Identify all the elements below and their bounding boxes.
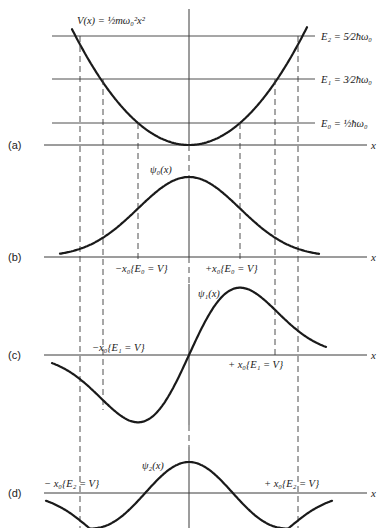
panel-d-psi2: ψ₂(x) − x₀{E₂ = V} + x₀{E₂ = V} (d) x <box>8 447 376 528</box>
e1-plus-turning-label: + x₀{E₁ = V} <box>228 359 284 370</box>
psi0-label: ψ₀(x) <box>150 164 172 176</box>
axis-x-label-c: x <box>370 349 376 361</box>
axis-x-label-b: x <box>370 251 376 263</box>
panel-label-c: (c) <box>8 349 21 361</box>
psi2-label: ψ₂(x) <box>142 460 164 472</box>
axis-x-label-a: x <box>370 139 376 151</box>
panel-label-b: (b) <box>8 251 21 263</box>
energy-e0-label: E₀ = ½ħω₀ <box>320 118 368 129</box>
potential-label: V(x) = ½mω₀²x² <box>77 15 146 27</box>
e2-minus-turning-label: − x₀{E₂ = V} <box>44 478 100 489</box>
panel-b-psi0: ψ₀(x) −x₀{E₀ = V} +x₀{E₀ = V} (b) x <box>8 164 376 274</box>
e1-minus-turning-label: −x₀{E₁ = V} <box>92 342 145 353</box>
panel-label-d: (d) <box>8 487 21 499</box>
axis-x-label-d: x <box>370 487 376 499</box>
e0-minus-turning-label: −x₀{E₀ = V} <box>115 263 168 274</box>
e2-plus-turning-label: + x₀{E₂ = V} <box>264 478 320 489</box>
energy-e2-label: E₂ = 5⁄2ħω₀ <box>320 31 372 42</box>
panel-c-psi1: ψ₁(x) −x₀{E₁ = V} + x₀{E₁ = V} (c) x <box>8 284 376 425</box>
panel-label-a: (a) <box>8 139 21 151</box>
e0-plus-turning-label: +x₀{E₀ = V} <box>205 263 258 274</box>
psi1-label: ψ₁(x) <box>198 288 220 300</box>
harmonic-oscillator-diagram: V(x) = ½mω₀²x² E₂ = 5⁄2ħω₀ E₁ = 3⁄2ħω₀ E… <box>0 0 383 528</box>
panel-a-potential: V(x) = ½mω₀²x² E₂ = 5⁄2ħω₀ E₁ = 3⁄2ħω₀ E… <box>8 9 376 151</box>
energy-e1-label: E₁ = 3⁄2ħω₀ <box>320 74 372 85</box>
